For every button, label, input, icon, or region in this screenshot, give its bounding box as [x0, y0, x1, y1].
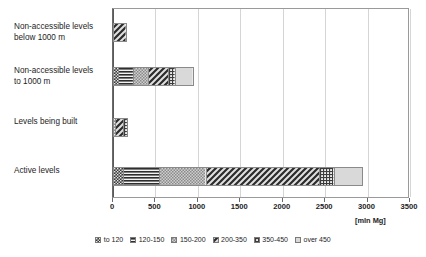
bar-segment: [160, 168, 206, 185]
legend-item[interactable]: over 450: [295, 236, 331, 243]
legend-item[interactable]: 120-150: [130, 236, 164, 243]
chart-container: Non-accessible levels below 1000 m Non-a…: [0, 0, 426, 257]
bar-segment: [176, 68, 193, 85]
legend-item[interactable]: to 120: [95, 236, 123, 243]
legend-swatch: [295, 237, 301, 243]
legend-swatch: [95, 237, 101, 243]
legend-item[interactable]: 200-350: [213, 236, 247, 243]
legend-swatch: [171, 237, 177, 243]
bar-row: [113, 67, 194, 86]
bar-segment: [134, 68, 149, 85]
bar-segment: [207, 168, 321, 185]
bar-segment: [114, 168, 124, 185]
bar-row: [113, 167, 363, 186]
bar-segment: [114, 24, 126, 41]
bar-segment: [124, 168, 160, 185]
legend-item[interactable]: 350-450: [254, 236, 288, 243]
bar-segment: [169, 68, 176, 85]
bar-segment: [116, 119, 125, 136]
x-tick-label: 3000: [347, 202, 387, 211]
bar-segment: [149, 68, 170, 85]
x-tick-label: 2500: [304, 202, 344, 211]
legend-swatch: [213, 237, 219, 243]
bar-row: [113, 23, 127, 42]
category-label-2: Levels being built: [14, 117, 110, 128]
legend-label: 200-350: [221, 236, 247, 243]
legend-label: to 120: [104, 236, 123, 243]
legend-label: over 450: [304, 236, 331, 243]
category-label-3: Active levels: [14, 166, 110, 177]
x-tick-label: 1000: [177, 202, 217, 211]
category-label-1: Non-accessible levels to 1000 m: [14, 66, 110, 87]
x-tick-label: 1500: [219, 202, 259, 211]
gridline-3500: [410, 9, 411, 197]
legend-swatch: [254, 237, 260, 243]
legend-label: 150-200: [180, 236, 206, 243]
bar-segment: [119, 68, 134, 85]
legend-item[interactable]: 150-200: [171, 236, 205, 243]
legend-label: 350-450: [262, 236, 288, 243]
gridline-3000: [368, 9, 369, 197]
axis-unit-label: [mln Mg]: [355, 216, 386, 225]
x-tick-label: 500: [134, 202, 174, 211]
bar-row: [113, 118, 128, 137]
x-tick-label: 3500: [389, 202, 426, 211]
plot-area: [112, 8, 409, 198]
x-tick-label: 2000: [262, 202, 302, 211]
x-tick-label: 0: [92, 202, 132, 211]
category-label-0: Non-accessible levels below 1000 m: [14, 22, 110, 43]
legend-label: 120-150: [139, 236, 165, 243]
bar-segment: [335, 168, 363, 185]
bar-segment: [320, 168, 334, 185]
legend-swatch: [130, 237, 136, 243]
bar-segment: [124, 119, 127, 136]
chart-legend: to 120120-150150-200200-350350-450over 4…: [0, 236, 426, 243]
